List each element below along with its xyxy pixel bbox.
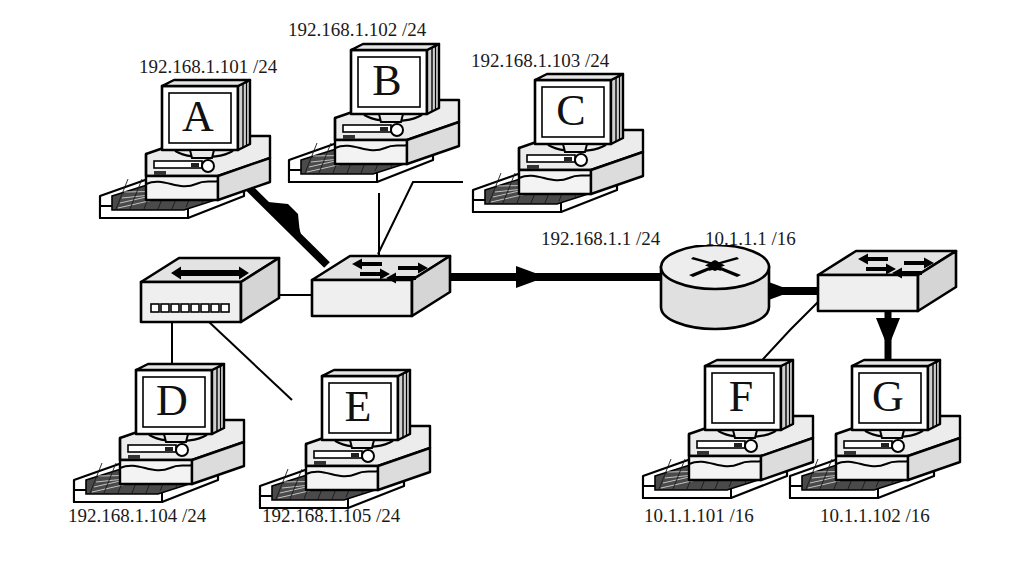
switch-left-device[interactable]	[312, 256, 450, 316]
host-a[interactable]: A	[100, 80, 270, 218]
link-a-switch	[241, 180, 327, 265]
hub-device[interactable]	[141, 258, 279, 322]
host-a-address-label: 192.168.1.101 /24	[139, 56, 277, 78]
link-switch-g-arrowhead	[876, 318, 900, 348]
host-f-address-label: 10.1.1.101 /16	[644, 505, 754, 527]
host-g[interactable]: G	[790, 360, 960, 498]
host-b-name: B	[372, 56, 401, 105]
host-e-name: E	[345, 382, 372, 431]
router-wan-address-label: 10.1.1.1 /16	[705, 228, 796, 250]
host-f[interactable]: F	[643, 360, 813, 498]
host-b[interactable]: B	[289, 44, 459, 182]
link-c-switch	[378, 182, 463, 254]
host-c-name: C	[556, 86, 585, 135]
host-d[interactable]: D	[74, 364, 244, 502]
host-g-address-label: 10.1.1.102 /16	[820, 505, 930, 527]
host-g-name: G	[872, 372, 904, 421]
host-d-address-label: 192.168.1.104 /24	[68, 505, 206, 527]
switch-right-device[interactable]	[818, 251, 956, 311]
network-diagram: A B C D E F G	[0, 0, 1011, 561]
host-a-name: A	[182, 92, 214, 141]
host-c[interactable]: C	[473, 74, 643, 212]
host-c-address-label: 192.168.1.103 /24	[471, 50, 609, 72]
host-d-name: D	[156, 376, 188, 425]
router-lan-address-label: 192.168.1.1 /24	[541, 228, 660, 250]
router-device[interactable]	[661, 245, 769, 329]
host-f-name: F	[729, 372, 753, 421]
link-switch-router-arrowhead	[516, 266, 546, 288]
host-b-address-label: 192.168.1.102 /24	[288, 19, 426, 41]
host-e-address-label: 192.168.1.105 /24	[262, 505, 400, 527]
host-e[interactable]: E	[260, 370, 430, 508]
